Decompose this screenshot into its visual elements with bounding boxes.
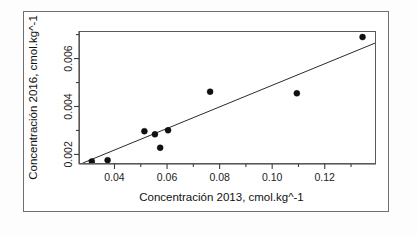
regression-line bbox=[83, 42, 376, 163]
data-point bbox=[141, 128, 147, 134]
data-point bbox=[105, 157, 111, 163]
data-point bbox=[89, 158, 95, 164]
data-point bbox=[152, 131, 158, 137]
data-point bbox=[294, 90, 300, 96]
data-point bbox=[165, 127, 171, 133]
figure-container: 0.040.060.080.100.120.0020.0040.006Conce… bbox=[0, 0, 417, 235]
data-point bbox=[207, 89, 213, 95]
plot-area bbox=[79, 31, 376, 164]
scatter-plot-canvas bbox=[80, 32, 376, 164]
data-point bbox=[360, 34, 366, 40]
data-point bbox=[157, 145, 163, 151]
